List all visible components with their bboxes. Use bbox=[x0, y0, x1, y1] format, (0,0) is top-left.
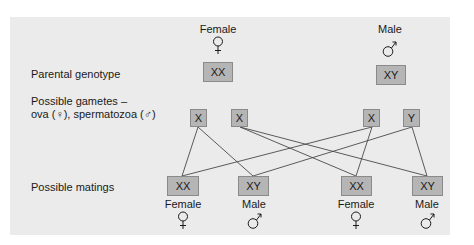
parent-male-genotype: XY bbox=[376, 65, 406, 85]
gamete-ovum-2: X bbox=[231, 109, 248, 127]
male-symbol-icon bbox=[382, 40, 398, 58]
mating-1-sex-label: Female bbox=[165, 198, 202, 210]
mating-2-sex-label: Male bbox=[242, 198, 266, 210]
line-ovum2-xx2 bbox=[240, 127, 356, 176]
male-symbol-icon bbox=[420, 212, 436, 230]
line-ovum1-xx1 bbox=[182, 127, 198, 176]
mating-1-genotype: XX bbox=[167, 176, 199, 196]
line-sperm1-xx2 bbox=[356, 127, 372, 176]
parental-genotype-label: Parental genotype bbox=[31, 68, 120, 81]
parent-female-label: Female bbox=[200, 23, 237, 35]
line-sperm2-xy2 bbox=[412, 127, 427, 176]
mating-3-sex-label: Female bbox=[338, 198, 375, 210]
mating-3-genotype: XX bbox=[341, 176, 372, 196]
female-symbol-icon bbox=[177, 211, 189, 231]
female-symbol-icon bbox=[350, 211, 362, 231]
mating-2-genotype: XY bbox=[238, 176, 269, 196]
parent-male-label: Male bbox=[378, 23, 402, 35]
male-symbol-icon bbox=[247, 212, 263, 230]
parent-female-genotype: XX bbox=[203, 62, 233, 82]
gametes-subtitle-label: ova (♀), spermatozoa (♂) bbox=[31, 108, 156, 121]
mating-4-genotype: XY bbox=[412, 176, 443, 196]
line-ovum1-xy1 bbox=[198, 127, 253, 176]
gamete-sperm-2: Y bbox=[403, 109, 420, 127]
female-symbol-icon bbox=[212, 36, 224, 56]
gamete-sperm-1: X bbox=[363, 109, 380, 127]
gamete-ovum-1: X bbox=[190, 109, 207, 127]
possible-matings-label: Possible matings bbox=[31, 181, 114, 194]
mating-4-sex-label: Male bbox=[415, 198, 439, 210]
possible-gametes-label: Possible gametes – bbox=[31, 95, 127, 108]
